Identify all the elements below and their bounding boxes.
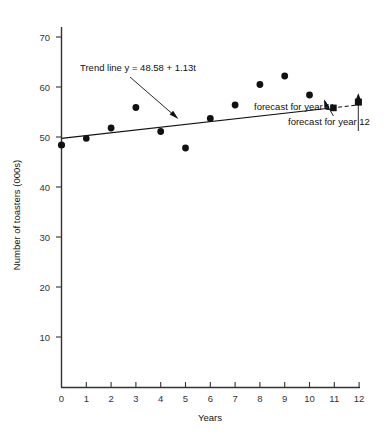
y-tick-label-50: 50 — [39, 132, 50, 143]
x-axis-tick-labels: 0 1 2 3 4 5 6 7 8 9 10 11 12 — [59, 393, 365, 404]
data-point-year-7 — [232, 102, 239, 109]
trend-line-annotation: Trend line y = 48.58 + 1.13t — [80, 62, 196, 119]
x-tick-label-2: 2 — [108, 393, 113, 404]
x-tick-label-9: 9 — [282, 393, 287, 404]
observed-series-points — [58, 73, 313, 152]
data-point-year-0 — [58, 141, 65, 148]
x-tick-label-3: 3 — [133, 393, 138, 404]
x-tick-label-12: 12 — [354, 393, 365, 404]
x-tick-label-0: 0 — [59, 393, 64, 404]
y-tick-label-30: 30 — [39, 232, 50, 243]
x-tick-label-6: 6 — [208, 393, 213, 404]
y-tick-label-20: 20 — [39, 282, 50, 293]
x-tick-label-1: 1 — [84, 393, 89, 404]
x-tick-label-8: 8 — [257, 393, 262, 404]
x-axis-ticks — [86, 382, 359, 388]
axes-group — [61, 27, 360, 388]
y-tick-label-10: 10 — [39, 332, 50, 343]
data-point-year-9 — [281, 73, 288, 80]
x-axis-title: Years — [198, 412, 222, 423]
y-tick-label-60: 60 — [39, 82, 50, 93]
x-tick-label-11: 11 — [329, 393, 339, 404]
x-tick-label-10: 10 — [304, 393, 315, 404]
data-point-year-8 — [257, 81, 264, 88]
x-tick-label-7: 7 — [232, 393, 237, 404]
data-point-year-4 — [157, 128, 164, 135]
y-tick-label-70: 70 — [39, 32, 50, 43]
y-axis-title: Number of toasters (000s) — [11, 160, 22, 270]
forecast-12-arrowhead — [355, 93, 362, 102]
chart-container: 10 20 30 40 50 60 70 0 1 2 3 — [0, 0, 388, 437]
y-axis-ticks — [56, 37, 62, 337]
trend-line-leader — [130, 77, 176, 117]
data-point-year-10 — [306, 92, 313, 99]
forecast-11-annotation: forecast for year 11 — [254, 99, 335, 116]
y-axis-tick-labels: 10 20 30 40 50 60 70 — [39, 32, 50, 343]
trend-line-annotation-label: Trend line y = 48.58 + 1.13t — [80, 62, 196, 73]
data-point-year-2 — [108, 125, 115, 132]
x-tick-label-4: 4 — [158, 393, 163, 404]
forecast-12-label: forecast for year 12 — [288, 116, 370, 127]
forecast-11-label: forecast for year 11 — [254, 101, 335, 112]
forecast-12-annotation: forecast for year 12 — [288, 93, 370, 131]
toaster-sales-scatter-chart: 10 20 30 40 50 60 70 0 1 2 3 — [0, 0, 388, 437]
data-point-year-6 — [207, 115, 214, 122]
data-point-year-1 — [83, 135, 90, 142]
x-tick-label-5: 5 — [183, 393, 188, 404]
data-point-year-3 — [133, 104, 140, 111]
y-tick-label-40: 40 — [39, 182, 50, 193]
data-point-year-5 — [182, 145, 189, 152]
